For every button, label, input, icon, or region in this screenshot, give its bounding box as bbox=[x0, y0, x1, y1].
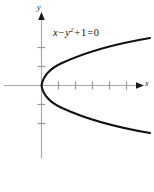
parabola-figure: y x x−y2+1=0 bbox=[0, 0, 154, 192]
y-axis-arrowhead bbox=[38, 12, 45, 20]
x-axis-label: x bbox=[145, 80, 149, 88]
x-axis-arrowhead bbox=[136, 82, 144, 89]
equation-annotation: x−y2+1=0 bbox=[53, 28, 99, 39]
y-axis-label: y bbox=[37, 4, 41, 12]
equation-rhs: 0 bbox=[94, 27, 99, 38]
equation-constant: 1 bbox=[81, 27, 86, 38]
equation-equals-operator: = bbox=[87, 27, 94, 38]
equation-plus-operator: + bbox=[74, 27, 81, 38]
